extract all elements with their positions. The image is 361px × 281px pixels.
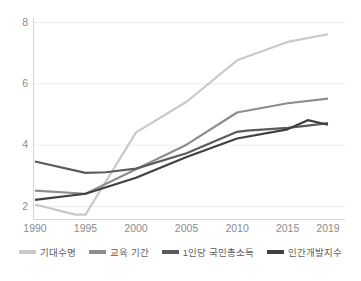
y-axis-tick-labels: 2468 (22, 16, 28, 212)
x-axis-tick-label: 2019 (316, 222, 340, 234)
data-series-group (35, 34, 328, 214)
chart-legend: 기대수명교육 기간1인당 국민총소득인간개발지수 (0, 240, 361, 264)
series-line (35, 34, 328, 214)
series-line (35, 120, 328, 200)
x-axis-tick-labels: 1990199520002005201020152019 (23, 222, 340, 234)
legend-swatch-icon (89, 250, 106, 254)
line-chart: 2468 1990199520002005201020152019 기대수명교육… (0, 0, 361, 281)
x-axis-tick-label: 2000 (124, 222, 148, 234)
legend-item[interactable]: 1인당 국민총소득 (162, 245, 254, 259)
legend-item-label: 교육 기간 (110, 245, 149, 259)
x-axis-tick-label: 2015 (276, 222, 300, 234)
x-axis-tick-label: 1995 (74, 222, 98, 234)
y-axis-tick-label: 8 (22, 16, 28, 28)
gridlines (34, 23, 345, 207)
y-axis-tick-label: 2 (22, 200, 28, 212)
x-axis-tick-label: 2010 (225, 222, 249, 234)
legend-item[interactable]: 교육 기간 (89, 245, 149, 259)
legend-item[interactable]: 인간개발지수 (267, 245, 342, 259)
legend-swatch-icon (267, 250, 284, 254)
x-axis-tick-label: 2005 (175, 222, 199, 234)
y-axis-tick-label: 4 (22, 138, 28, 150)
legend-swatch-icon (19, 250, 36, 254)
legend-item-label: 1인당 국민총소득 (183, 245, 254, 259)
y-axis-tick-label: 6 (22, 77, 28, 89)
legend-item-label: 인간개발지수 (288, 245, 342, 259)
series-line (35, 99, 328, 194)
x-axis-tick-label: 1990 (23, 222, 47, 234)
legend-item[interactable]: 기대수명 (19, 245, 76, 259)
chart-plot-area: 2468 1990199520002005201020152019 (0, 0, 361, 281)
legend-item-label: 기대수명 (40, 245, 76, 259)
legend-swatch-icon (162, 250, 179, 254)
